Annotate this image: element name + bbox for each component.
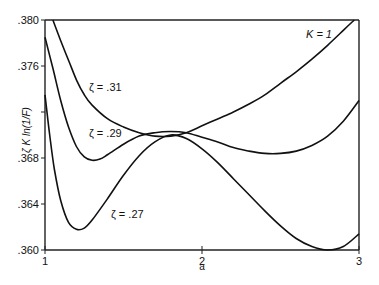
curve-zeta-2 — [45, 95, 359, 250]
curve-label: ζ = .29 — [89, 127, 122, 139]
curve-label: ζ = .31 — [89, 81, 122, 93]
y-tick-label: .376 — [18, 60, 39, 72]
annotation-k: K = 1 — [306, 28, 332, 40]
x-axis-label: a — [199, 261, 205, 272]
y-tick-label: .360 — [18, 244, 39, 256]
line-chart: .360.364.368.376.380 123 ζ = .31ζ = .29ζ… — [0, 0, 379, 285]
curve-label: ζ = .27 — [111, 208, 144, 220]
curve-labels: ζ = .31ζ = .29ζ = .27 — [89, 81, 144, 220]
curve-zeta-1 — [45, 37, 359, 160]
y-tick-label: .364 — [18, 198, 39, 210]
y-axis-label: ζ K ln(1/F) — [21, 107, 33, 153]
x-tick-label: 1 — [42, 255, 48, 267]
y-tick-label: .380 — [18, 14, 39, 26]
x-tick-label: 3 — [356, 255, 362, 267]
